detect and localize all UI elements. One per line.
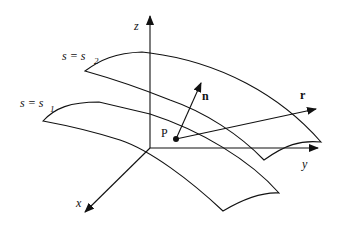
normal-vector-label: n — [202, 89, 209, 103]
position-vector-r — [176, 109, 316, 139]
surface-s1-subscript: 1 — [50, 104, 55, 114]
surface-s1 — [43, 102, 279, 211]
x-axis — [85, 148, 150, 212]
surface-s2-subscript: 2 — [94, 56, 99, 66]
x-axis-label: x — [75, 196, 82, 210]
surfaces-diagram: z y x s = s 2 s = s 1 P n r — [0, 0, 339, 228]
point-p-dot — [173, 136, 179, 142]
surface-s2 — [85, 52, 321, 160]
surface-s2-label: s = s — [62, 49, 86, 63]
surface-s1-label: s = s — [20, 96, 44, 110]
y-axis-label: y — [301, 157, 308, 171]
position-vector-label: r — [300, 88, 306, 102]
z-axis-label: z — [133, 19, 139, 33]
point-p-label: P — [161, 126, 168, 140]
